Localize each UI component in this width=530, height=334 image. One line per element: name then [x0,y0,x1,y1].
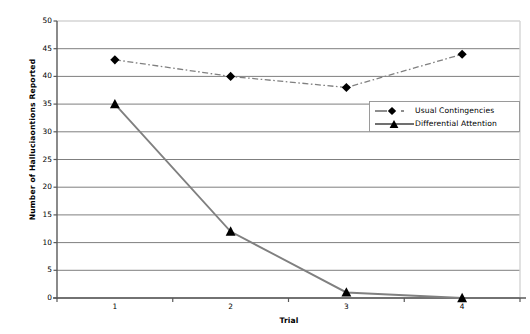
gridlines [57,21,520,298]
legend-item-usual-contingencies: Usual Contingencies [370,104,521,118]
plot-area [0,0,530,334]
x-tick-label: 4 [442,303,482,310]
data-point-marker [110,99,120,108]
x-axis-title: Trial [57,316,521,325]
data-point-marker [342,83,351,92]
series-layer [110,50,467,303]
legend-label-differential-attention: Differential Attention [415,119,497,128]
hallucinations-line-chart: Number of Halluciaontions Reported 05101… [0,0,530,334]
legend-key-triangle-solid [374,117,414,131]
x-tick-label: 1 [95,303,135,310]
series-line-0 [115,54,462,87]
data-point-marker [110,55,119,64]
x-tick-label: 3 [326,303,366,310]
chart-legend: Usual Contingencies Differential Attenti… [369,101,520,132]
x-tick-label: 2 [211,303,251,310]
data-point-marker [458,50,467,59]
legend-item-differential-attention: Differential Attention [370,117,521,131]
legend-label-usual-contingencies: Usual Contingencies [415,106,494,115]
legend-key-diamond-dashdot [374,104,414,118]
data-point-marker [226,72,235,81]
series-line-1 [115,104,462,298]
